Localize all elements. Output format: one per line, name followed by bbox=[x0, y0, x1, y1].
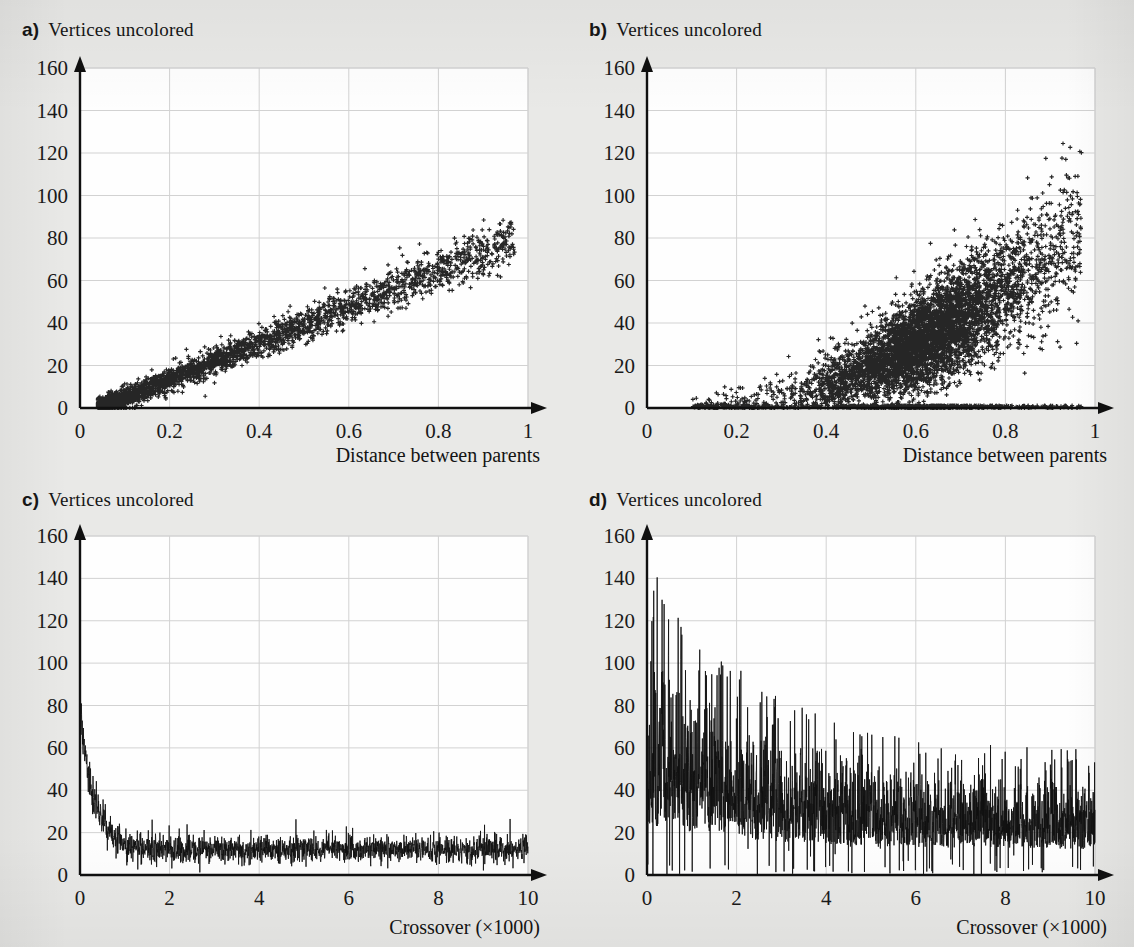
panel-d-svg: 0204060801001201401600246810Crossover (×… bbox=[567, 470, 1134, 947]
x-tick-label: 6 bbox=[344, 886, 355, 910]
y-tick-label: 140 bbox=[37, 566, 69, 590]
x-axis-title: Crossover (×1000) bbox=[956, 916, 1107, 939]
x-tick-label: 0.4 bbox=[813, 419, 840, 443]
x-axis-title: Distance between parents bbox=[336, 444, 541, 467]
y-tick-label: 80 bbox=[47, 694, 68, 718]
y-tick-label: 60 bbox=[614, 736, 635, 760]
y-tick-label: 0 bbox=[58, 396, 69, 420]
x-tick-label: 8 bbox=[1000, 886, 1011, 910]
x-tick-label: 8 bbox=[433, 886, 444, 910]
x-tick-label: 1 bbox=[1090, 419, 1101, 443]
x-tick-label: 0 bbox=[642, 886, 653, 910]
x-tick-label: 0.2 bbox=[156, 419, 182, 443]
y-tick-label: 20 bbox=[47, 821, 68, 845]
panel-b-svg: 02040608010012014016000.20.40.60.81Dista… bbox=[567, 0, 1134, 470]
x-axis-title: Crossover (×1000) bbox=[389, 916, 540, 939]
x-tick-label: 1 bbox=[523, 419, 534, 443]
y-tick-label: 160 bbox=[37, 524, 69, 548]
y-tick-label: 120 bbox=[37, 609, 69, 633]
y-tick-label: 60 bbox=[614, 269, 635, 293]
y-tick-label: 100 bbox=[604, 651, 636, 675]
y-tick-label: 140 bbox=[37, 99, 69, 123]
y-tick-label: 40 bbox=[47, 778, 68, 802]
y-tick-label: 100 bbox=[604, 184, 636, 208]
x-tick-label: 0.6 bbox=[903, 419, 929, 443]
y-tick-label: 120 bbox=[604, 141, 636, 165]
x-tick-label: 2 bbox=[164, 886, 175, 910]
x-tick-label: 0.8 bbox=[992, 419, 1018, 443]
y-tick-label: 160 bbox=[604, 56, 636, 80]
panel-b: b)Vertices uncolored 0204060801001201401… bbox=[567, 0, 1134, 470]
y-tick-label: 140 bbox=[604, 566, 636, 590]
y-tick-label: 60 bbox=[47, 736, 68, 760]
y-tick-label: 40 bbox=[614, 311, 635, 335]
x-tick-label: 10 bbox=[1085, 886, 1106, 910]
x-axis-title: Distance between parents bbox=[903, 444, 1108, 467]
x-tick-label: 0.8 bbox=[425, 419, 451, 443]
x-tick-label: 0 bbox=[75, 419, 86, 443]
x-tick-label: 0 bbox=[642, 419, 653, 443]
y-tick-label: 100 bbox=[37, 184, 69, 208]
x-tick-label: 4 bbox=[821, 886, 832, 910]
y-tick-label: 40 bbox=[47, 311, 68, 335]
x-tick-label: 0.4 bbox=[246, 419, 273, 443]
x-tick-label: 0 bbox=[75, 886, 86, 910]
y-tick-label: 20 bbox=[614, 821, 635, 845]
panel-c-plot: 0204060801001201401600246810Crossover (×… bbox=[0, 470, 567, 947]
x-tick-label: 0.6 bbox=[336, 419, 362, 443]
x-tick-label: 0.2 bbox=[723, 419, 749, 443]
figure-root: a)Vertices uncolored 0204060801001201401… bbox=[0, 0, 1134, 947]
y-tick-label: 40 bbox=[614, 778, 635, 802]
x-tick-label: 2 bbox=[731, 886, 742, 910]
panel-b-plot: 02040608010012014016000.20.40.60.81Dista… bbox=[567, 0, 1134, 477]
y-tick-label: 160 bbox=[37, 56, 69, 80]
panel-c-svg: 0204060801001201401600246810Crossover (×… bbox=[0, 470, 567, 947]
y-tick-label: 0 bbox=[58, 863, 69, 887]
y-tick-label: 20 bbox=[614, 354, 635, 378]
y-tick-label: 0 bbox=[625, 396, 636, 420]
y-tick-label: 140 bbox=[604, 99, 636, 123]
panel-a: a)Vertices uncolored 0204060801001201401… bbox=[0, 0, 567, 470]
y-tick-label: 0 bbox=[625, 863, 636, 887]
y-tick-label: 120 bbox=[604, 609, 636, 633]
x-tick-label: 6 bbox=[911, 886, 922, 910]
y-tick-label: 120 bbox=[37, 141, 69, 165]
panel-a-svg: 02040608010012014016000.20.40.60.81Dista… bbox=[0, 0, 567, 470]
y-tick-label: 80 bbox=[47, 226, 68, 250]
panel-a-plot: 02040608010012014016000.20.40.60.81Dista… bbox=[0, 0, 567, 477]
panel-d: d)Vertices uncolored 0204060801001201401… bbox=[567, 470, 1134, 947]
y-tick-label: 80 bbox=[614, 226, 635, 250]
y-tick-label: 80 bbox=[614, 694, 635, 718]
y-tick-label: 60 bbox=[47, 269, 68, 293]
panel-c: c)Vertices uncolored 0204060801001201401… bbox=[0, 470, 567, 947]
y-tick-label: 20 bbox=[47, 354, 68, 378]
y-tick-label: 160 bbox=[604, 524, 636, 548]
x-tick-label: 10 bbox=[518, 886, 539, 910]
panel-d-plot: 0204060801001201401600246810Crossover (×… bbox=[567, 470, 1134, 947]
y-tick-label: 100 bbox=[37, 651, 69, 675]
x-tick-label: 4 bbox=[254, 886, 265, 910]
